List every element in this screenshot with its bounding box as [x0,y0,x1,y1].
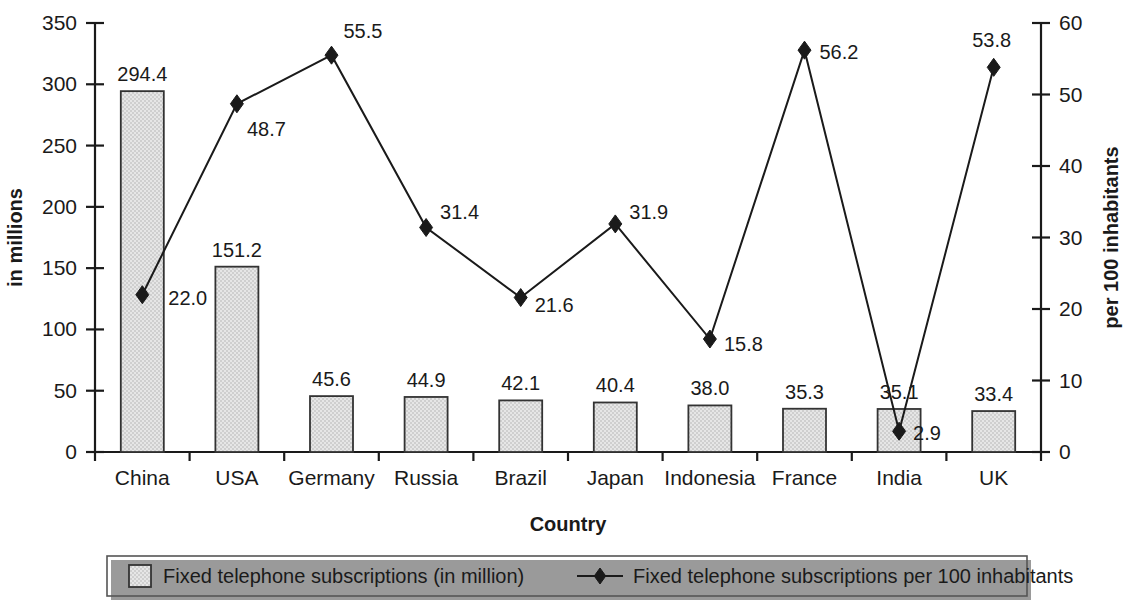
bar-usa [215,267,258,452]
bar-value-label: 42.1 [501,372,540,394]
x-axis-title: Country [530,513,608,535]
category-label-germany: Germany [288,466,375,489]
bar-value-label: 151.2 [212,239,262,261]
bar-indonesia [688,405,731,452]
combo-chart: 050100150200250300350 0102030405060 294.… [0,0,1136,605]
line-value-label: 15.8 [724,333,763,355]
line-value-label: 55.5 [344,20,383,42]
right-tick-label: 30 [1059,226,1082,249]
right-tick-label: 0 [1059,440,1071,463]
bar-china [121,91,164,452]
left-tick-label: 350 [42,11,77,34]
category-label-japan: Japan [587,466,644,489]
bar-france [783,409,826,452]
category-label-usa: USA [215,466,258,489]
line-value-label: 31.4 [440,201,479,223]
legend-label-bar: Fixed telephone subscriptions (in millio… [163,565,524,587]
line-series-path [142,50,993,431]
bar-japan [594,402,637,452]
left-tick-label: 0 [65,440,77,463]
category-label-france: France [772,466,837,489]
category-label-brazil: Brazil [494,466,547,489]
line-series [136,41,1000,440]
line-value-label: 53.8 [972,29,1011,51]
category-label-india: India [876,466,922,489]
bar-value-label: 294.4 [117,63,167,85]
line-value-label: 56.2 [820,41,859,63]
right-tick-label: 10 [1059,369,1082,392]
line-marker-france [798,41,811,59]
category-label-uk: UK [979,466,1008,489]
bar-uk [972,411,1015,452]
left-axis: 050100150200250300350 [42,11,104,463]
line-value-label: 22.0 [168,287,207,309]
left-tick-label: 300 [42,72,77,95]
left-tick-label: 150 [42,256,77,279]
left-tick-label: 50 [54,379,77,402]
bar-russia [405,397,448,452]
line-marker-uk [987,58,1000,76]
chart-container: 050100150200250300350 0102030405060 294.… [0,0,1136,605]
right-axis-title: per 100 inhabitants [1100,146,1122,328]
bar-value-label: 33.4 [974,383,1013,405]
left-tick-label: 100 [42,317,77,340]
bar-value-label: 44.9 [407,369,446,391]
right-tick-label: 20 [1059,297,1082,320]
bar-brazil [499,400,542,452]
line-marker-brazil [514,289,527,307]
legend-label-line: Fixed telephone subscriptions per 100 in… [633,565,1073,587]
line-value-label: 21.6 [535,294,574,316]
left-tick-label: 200 [42,195,77,218]
left-axis-title: in millions [4,188,26,287]
bar-germany [310,396,353,452]
line-marker-usa [230,95,243,113]
category-label-indonesia: Indonesia [664,466,755,489]
left-tick-label: 250 [42,134,77,157]
legend: Fixed telephone subscriptions (in millio… [107,556,1073,600]
right-tick-label: 50 [1059,83,1082,106]
legend-swatch-bar [129,565,151,587]
category-label-russia: Russia [394,466,459,489]
line-value-label: 31.9 [629,201,668,223]
category-labels: ChinaUSAGermanyRussiaBrazilJapanIndonesi… [115,466,1008,489]
bar-value-label: 45.6 [312,368,351,390]
right-tick-label: 60 [1059,11,1082,34]
category-label-china: China [115,466,170,489]
x-axis [95,452,1041,461]
bar-value-label: 40.4 [596,374,635,396]
bar-value-label: 38.0 [690,377,729,399]
bar-value-label: 35.3 [785,381,824,403]
bar-value-label: 35.1 [880,381,919,403]
right-axis: 0102030405060 [1032,11,1082,463]
line-value-label: 2.9 [913,422,941,444]
right-tick-label: 40 [1059,154,1082,177]
line-value-label: 48.7 [247,118,286,140]
